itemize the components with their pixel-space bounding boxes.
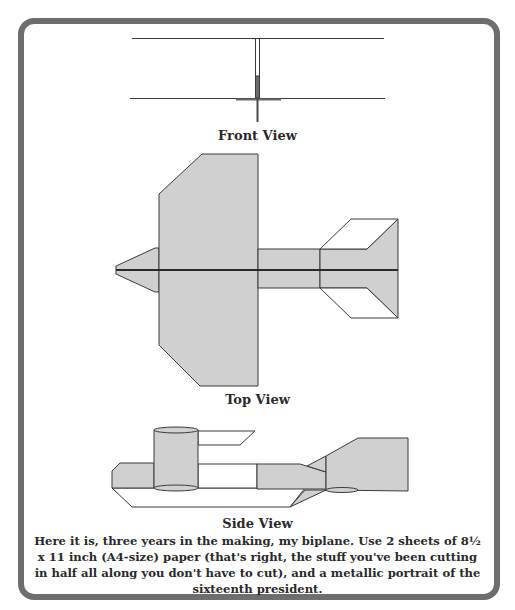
side-lower-wing [112, 488, 305, 507]
side-mid-fuselage [198, 464, 257, 488]
figure-caption: Here it is, three years in the making, m… [30, 533, 485, 597]
side-cylinder-top [154, 427, 198, 433]
front-view-label: Front View [0, 128, 515, 143]
top-view-drawing [116, 154, 398, 386]
side-view-label: Side View [0, 516, 515, 531]
side-tail-wheel [326, 488, 358, 493]
side-tail-fin [326, 438, 408, 491]
side-view-drawing [112, 427, 408, 507]
front-view-drawing [130, 38, 385, 122]
side-upper-wing [198, 431, 255, 445]
top-fuselage [258, 249, 320, 288]
top-view-label: Top View [0, 392, 515, 407]
front-fuselage [256, 76, 260, 98]
side-cylinder-bottom [154, 485, 198, 491]
side-cylinder-body [154, 430, 198, 488]
side-nose-fuselage [112, 463, 154, 488]
